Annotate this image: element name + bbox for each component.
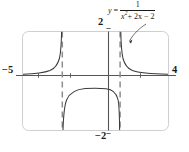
- equation-equals: =: [114, 7, 119, 15]
- equation-denominator-rest: + 2x − 2: [127, 12, 154, 21]
- equation-callout: y = 1 x2+ 2x − 2: [108, 1, 155, 21]
- y-axis-label-bottom: −2: [95, 131, 106, 142]
- function-graph-figure: −5 4 2 −2 y = 1 x2+ 2x − 2: [0, 0, 189, 152]
- equation-denominator: x2+ 2x − 2: [120, 11, 155, 21]
- equation-numerator: 1: [134, 1, 142, 10]
- equation-lhs: y: [108, 7, 112, 15]
- equation-fraction: 1 x2+ 2x − 2: [120, 1, 155, 21]
- x-axis-label-right: 4: [172, 65, 177, 76]
- y-axis-label-top: 2: [98, 17, 103, 28]
- x-axis-label-left: −5: [2, 65, 13, 76]
- plot-frame: [23, 32, 169, 131]
